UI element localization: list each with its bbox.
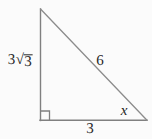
angle-label-x: x	[121, 104, 128, 119]
base-leg-label: 3	[86, 122, 94, 137]
hypotenuse-label: 6	[96, 54, 104, 69]
hypotenuse-line	[41, 9, 148, 120]
triangle-figure: 3√3 6 x 3	[0, 0, 152, 139]
vertical-leg-label: 3√3	[8, 53, 33, 70]
radical-expression: 3√3	[8, 53, 33, 70]
radical-coefficient: 3	[8, 53, 16, 68]
radicand-value: 3	[24, 54, 33, 71]
radical-sign-icon: √	[16, 53, 24, 68]
right-angle-marker	[41, 111, 50, 120]
